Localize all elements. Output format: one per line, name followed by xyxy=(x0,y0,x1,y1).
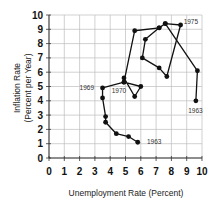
y-tick-label: 6 xyxy=(37,67,43,78)
data-point xyxy=(114,131,119,136)
data-lines xyxy=(103,24,198,143)
data-point xyxy=(122,76,127,81)
annotation-label: 1969 xyxy=(80,84,95,91)
data-points xyxy=(100,21,200,144)
data-point xyxy=(132,94,137,99)
x-tick-labels: 012345678910 xyxy=(46,166,208,177)
data-point xyxy=(100,96,105,101)
x-tick-label: 9 xyxy=(184,166,190,177)
data-point xyxy=(178,23,183,28)
data-point xyxy=(157,66,162,71)
series-line xyxy=(103,24,198,143)
data-point xyxy=(140,56,145,61)
annotation-label: 1963 xyxy=(147,138,162,145)
year-annotations: 19631969197019751963 xyxy=(80,18,203,145)
x-tick-label: 5 xyxy=(123,166,129,177)
svg-text:Inflation Rate: Inflation Rate xyxy=(12,63,22,113)
data-point xyxy=(103,114,108,119)
annotation-label: 1975 xyxy=(184,18,199,25)
x-tick-label: 6 xyxy=(138,166,144,177)
svg-text:(Percent per Year): (Percent per Year) xyxy=(23,53,33,122)
data-point xyxy=(138,84,143,89)
y-tick-label: 4 xyxy=(37,95,43,106)
data-point xyxy=(157,25,162,30)
data-point xyxy=(195,68,200,73)
x-tick-label: 7 xyxy=(153,166,159,177)
y-tick-label: 3 xyxy=(37,110,43,121)
x-tick-label: 8 xyxy=(169,166,175,177)
data-point xyxy=(122,80,127,85)
data-point xyxy=(132,28,137,33)
x-tick-label: 2 xyxy=(77,166,83,177)
y-tick-label: 0 xyxy=(37,153,43,164)
x-tick-label: 3 xyxy=(92,166,98,177)
data-point xyxy=(163,21,168,26)
annotation-label: 1963 xyxy=(188,107,203,114)
y-tick-label: 1 xyxy=(37,138,43,149)
x-tick-label: 4 xyxy=(107,166,113,177)
x-tick-label: 0 xyxy=(46,166,52,177)
y-tick-label: 5 xyxy=(37,81,43,92)
y-tick-label: 2 xyxy=(37,124,43,135)
x-tick-label: 10 xyxy=(196,166,208,177)
y-tick-labels: 012345678910 xyxy=(32,10,44,164)
annotation-label: 1970 xyxy=(112,87,127,94)
y-tick-label: 10 xyxy=(32,10,44,21)
y-tick-label: 7 xyxy=(37,52,43,63)
data-point xyxy=(193,98,198,103)
y-tick-label: 9 xyxy=(37,24,43,35)
data-point xyxy=(135,140,140,145)
data-point xyxy=(100,86,105,91)
data-point xyxy=(143,37,148,42)
data-point xyxy=(103,120,108,125)
x-tick-label: 1 xyxy=(62,166,68,177)
y-tick-label: 8 xyxy=(37,38,43,49)
y-axis-label: Inflation Rate (Percent per Year) xyxy=(12,53,33,122)
x-axis-label: Unemployment Rate (Percent) xyxy=(69,188,184,198)
phillips-curve-chart: 012345678910 012345678910 19631969197019… xyxy=(0,0,219,208)
data-point xyxy=(164,74,169,79)
data-point xyxy=(126,134,131,139)
